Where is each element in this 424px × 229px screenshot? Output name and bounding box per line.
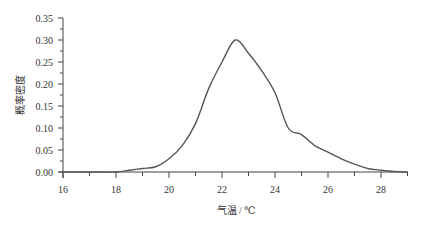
y-tick-label: 0.15	[36, 101, 54, 112]
x-tick-label: 18	[111, 184, 121, 195]
y-tick-label: 0.00	[36, 167, 54, 178]
y-tick-label: 0.20	[36, 79, 54, 90]
y-tick-label: 0.10	[36, 123, 54, 134]
x-axis-title: 气温 / ℃	[217, 204, 256, 216]
density-chart: 0.000.050.100.150.200.250.300.35 1618202…	[0, 0, 424, 229]
y-tick-label: 0.30	[36, 35, 54, 46]
x-tick-label: 22	[217, 184, 227, 195]
x-tick-label: 20	[164, 184, 174, 195]
y-tick-label: 0.05	[36, 145, 54, 156]
x-tick-label: 16	[58, 184, 68, 195]
y-axis-title: 概率密度	[14, 75, 26, 115]
x-tick-label: 24	[270, 184, 280, 195]
density-curve	[63, 40, 408, 172]
x-axis: 16182022242628	[58, 172, 408, 195]
x-tick-label: 28	[376, 184, 386, 195]
y-axis: 0.000.050.100.150.200.250.300.35	[36, 13, 64, 179]
x-tick-label: 26	[323, 184, 333, 195]
y-tick-label: 0.35	[36, 13, 54, 24]
y-tick-label: 0.25	[36, 57, 54, 68]
